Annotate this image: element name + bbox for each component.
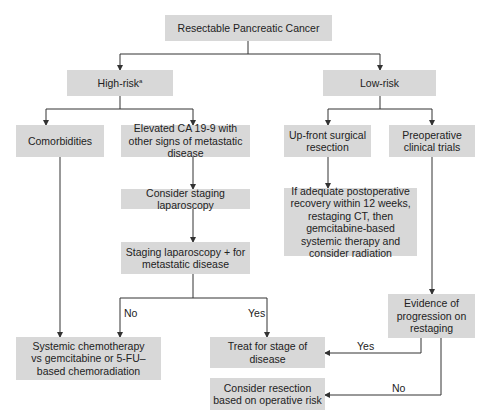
high-risk-text: High-risk xyxy=(98,77,139,89)
node-elevated-ca: Elevated CA 19-9 with other signs of met… xyxy=(121,125,250,157)
node-systemic-chemo: Systemic chemotherapy vs gemcitabine or … xyxy=(16,337,161,380)
footnote-marker: a xyxy=(139,77,142,83)
edge-label-staging-no: No xyxy=(124,307,137,319)
edge-label-progression-no: No xyxy=(392,382,405,394)
node-consider-staging: Consider staging laparoscopy xyxy=(121,189,250,209)
edge-label-staging-yes: Yes xyxy=(248,307,265,319)
node-consider-staging-label: Consider staging laparoscopy xyxy=(124,187,247,212)
node-evidence-progression-label: Evidence of progression on restaging xyxy=(394,297,469,335)
node-consider-resection: Consider resection based on operative ri… xyxy=(210,378,325,410)
node-comorbidities-label: Comorbidities xyxy=(28,135,92,148)
node-upfront-surgery-label: Up-front surgical resection xyxy=(287,129,368,154)
node-staging-positive: Staging laparoscopy + for metastatic dis… xyxy=(121,242,250,274)
node-preop-trials: Preoperative clinical trials xyxy=(389,125,475,157)
node-high-risk-label: High-riska xyxy=(98,77,143,90)
node-consider-resection-label: Consider resection based on operative ri… xyxy=(213,382,322,407)
node-comorbidities: Comorbidities xyxy=(16,125,104,157)
node-high-risk: High-riska xyxy=(67,70,173,96)
node-if-adequate: If adequate postoperative recovery withi… xyxy=(284,188,417,256)
node-root-label: Resectable Pancreatic Cancer xyxy=(178,22,320,35)
edge-label-progression-yes: Yes xyxy=(357,340,374,352)
node-treat-stage: Treat for stage of disease xyxy=(210,337,325,368)
node-if-adequate-label: If adequate postoperative recovery withi… xyxy=(290,185,411,260)
node-low-risk: Low-risk xyxy=(323,70,436,96)
node-elevated-ca-label: Elevated CA 19-9 with other signs of met… xyxy=(124,122,247,160)
node-staging-positive-label: Staging laparoscopy + for metastatic dis… xyxy=(124,246,247,271)
node-systemic-chemo-label: Systemic chemotherapy vs gemcitabine or … xyxy=(28,340,149,378)
node-treat-stage-label: Treat for stage of disease xyxy=(224,340,311,365)
node-upfront-surgery: Up-front surgical resection xyxy=(284,125,371,157)
node-low-risk-label: Low-risk xyxy=(360,77,399,90)
node-preop-trials-label: Preoperative clinical trials xyxy=(392,129,472,154)
node-evidence-progression: Evidence of progression on restaging xyxy=(388,294,475,338)
node-root: Resectable Pancreatic Cancer xyxy=(165,15,332,41)
